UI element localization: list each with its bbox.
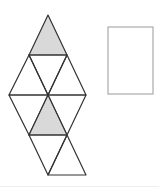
answer-box bbox=[108, 27, 153, 94]
separator-line bbox=[0, 186, 159, 187]
shaded-triangle bbox=[29, 15, 67, 55]
shaded-triangle bbox=[29, 95, 67, 135]
triangle bbox=[48, 135, 86, 175]
triangle bbox=[29, 55, 67, 95]
triangle bbox=[9, 55, 48, 95]
triangle-net-diagram bbox=[0, 0, 159, 190]
triangle bbox=[48, 55, 86, 95]
triangle bbox=[29, 135, 67, 175]
